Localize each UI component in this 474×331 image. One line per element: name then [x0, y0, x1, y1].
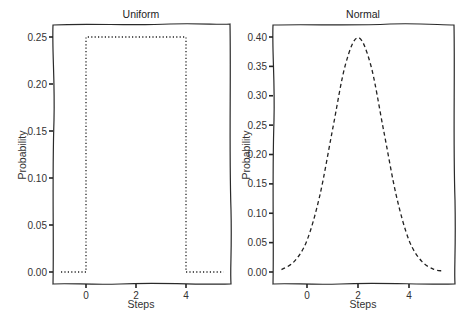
y-tick-label: 0.25 [28, 32, 48, 43]
x-tick-label: 4 [183, 290, 189, 301]
x-axis-label: Steps [350, 298, 377, 310]
y-tick-label: 0.10 [248, 208, 268, 219]
panel-title: Normal [346, 8, 380, 20]
y-tick-label: 0.40 [248, 32, 268, 43]
y-axis: 0.000.050.100.150.200.25 [28, 32, 53, 278]
y-axis-label: Probability [240, 130, 252, 180]
plot-frame [53, 24, 231, 285]
y-tick-label: 0.25 [248, 120, 268, 131]
y-tick-label: 0.30 [248, 90, 268, 101]
y-tick-label: 0.00 [248, 267, 268, 278]
y-tick-label: 0.05 [28, 220, 48, 231]
x-tick-label: 0 [304, 290, 310, 301]
y-tick-label: 0.35 [248, 61, 268, 72]
normal-curve [282, 38, 443, 271]
y-axis-label: Probability [16, 130, 28, 180]
x-axis-label: Steps [128, 298, 155, 310]
y-tick-label: 0.20 [28, 79, 48, 90]
y-tick-label: 0.05 [248, 237, 268, 248]
y-tick-label: 0.15 [28, 126, 48, 137]
chart-figure: Uniform 0.000.050.100.150.200.25 024 Ste… [0, 0, 474, 331]
x-tick-label: 4 [406, 290, 412, 301]
y-tick-label: 0.10 [28, 173, 48, 184]
plot-frame [273, 24, 455, 285]
y-tick-label: 0.00 [28, 267, 48, 278]
panel-uniform: Uniform 0.000.050.100.150.200.25 024 Ste… [16, 8, 231, 310]
uniform-line [61, 37, 224, 272]
panel-title: Uniform [123, 8, 160, 20]
x-tick-label: 0 [83, 290, 89, 301]
panel-normal: Normal 0.000.050.100.150.200.250.300.350… [240, 8, 455, 310]
